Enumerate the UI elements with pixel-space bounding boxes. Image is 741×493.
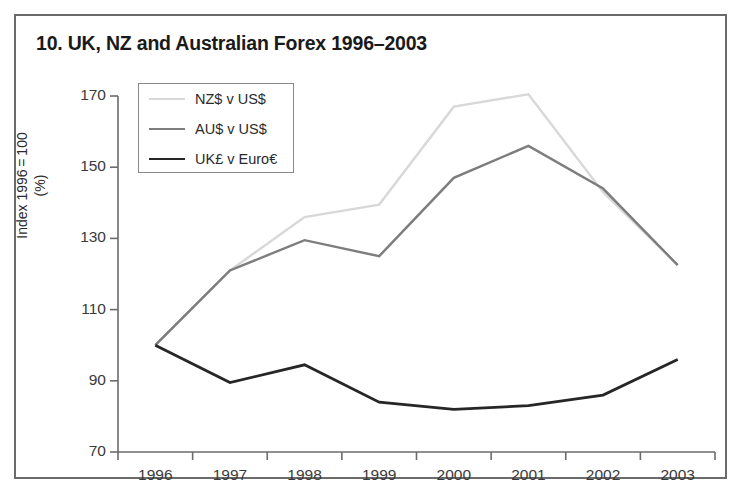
chart-plot-area: Index 1996 = 100 (%) 7090110130150170 19…	[0, 0, 741, 493]
x-tick-label: 1999	[349, 466, 409, 484]
x-tick-label: 2000	[424, 466, 484, 484]
legend-item: UK£ v Euro€	[139, 144, 293, 174]
x-axis-ticks	[118, 452, 715, 460]
y-axis-ticks	[110, 96, 118, 452]
y-tick-label: 70	[62, 442, 106, 460]
x-tick-label: 1997	[200, 466, 260, 484]
y-tick-label: 130	[62, 228, 106, 246]
series-line-1	[155, 146, 677, 345]
x-tick-label: 1996	[125, 466, 185, 484]
y-tick-label: 90	[62, 371, 106, 389]
legend-item: AU$ v US$	[139, 114, 293, 144]
x-tick-label: 2002	[573, 466, 633, 484]
legend-label: AU$ v US$	[195, 121, 267, 137]
y-tick-label: 110	[62, 300, 106, 318]
y-tick-label: 170	[62, 86, 106, 104]
legend-item: NZ$ v US$	[139, 84, 293, 114]
x-tick-label: 1998	[275, 466, 335, 484]
series-line-2	[155, 345, 677, 409]
x-tick-label: 2001	[498, 466, 558, 484]
line-chart-svg	[0, 0, 741, 493]
x-tick-label: 2003	[648, 466, 708, 484]
chart-legend: NZ$ v US$AU$ v US$UK£ v Euro€	[138, 83, 294, 173]
legend-label: UK£ v Euro€	[195, 151, 277, 167]
legend-label: NZ$ v US$	[195, 91, 266, 107]
legend-line-swatch	[149, 98, 185, 100]
y-tick-label: 150	[62, 157, 106, 175]
legend-line-swatch	[149, 158, 185, 160]
legend-line-swatch	[149, 128, 185, 130]
